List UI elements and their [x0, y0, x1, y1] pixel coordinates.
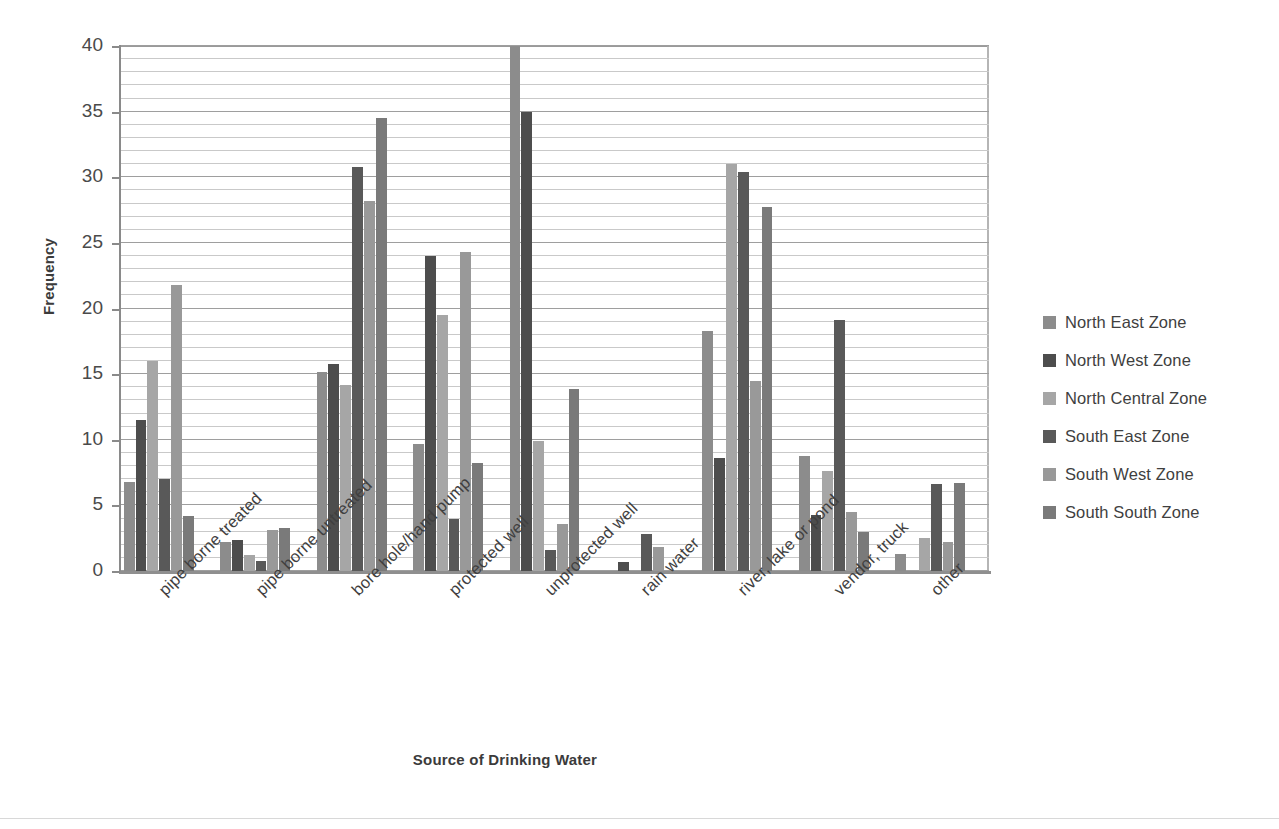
bar [449, 519, 460, 572]
legend-swatch-icon [1043, 430, 1056, 443]
y-tick-label: 40 [57, 35, 103, 54]
bar [726, 164, 737, 571]
bar [220, 542, 231, 571]
y-axis-title: Frequency [40, 217, 57, 337]
y-tick-mark [112, 374, 120, 376]
bar [954, 483, 965, 571]
y-tick-label: 10 [57, 429, 103, 448]
bar [738, 172, 749, 571]
y-tick-mark [112, 505, 120, 507]
y-tick-mark [112, 440, 120, 442]
bar [618, 562, 629, 571]
y-tick-label: 20 [57, 298, 103, 317]
bar-group [510, 46, 581, 571]
legend-item[interactable]: North West Zone [1043, 341, 1268, 379]
bar-group [124, 46, 195, 571]
bar [460, 252, 471, 571]
bar [750, 381, 761, 571]
bar [364, 201, 375, 571]
bar [641, 534, 652, 571]
legend-swatch-icon [1043, 316, 1056, 329]
y-tick-label: 5 [57, 494, 103, 513]
y-tick-mark [112, 112, 120, 114]
bar [136, 420, 147, 571]
y-tick-mark [112, 46, 120, 48]
y-tick-label: 35 [57, 101, 103, 120]
legend-label: North West Zone [1065, 351, 1191, 370]
bar [702, 331, 713, 571]
bar [244, 555, 255, 571]
legend-label: North East Zone [1065, 313, 1187, 332]
bar [376, 118, 387, 571]
y-tick-label: 30 [57, 166, 103, 185]
bar [510, 46, 521, 571]
bar-group [702, 46, 773, 571]
legend-swatch-icon [1043, 354, 1056, 367]
legend-item[interactable]: South South Zone [1043, 493, 1268, 531]
legend-item[interactable]: South West Zone [1043, 455, 1268, 493]
bar [124, 482, 135, 571]
legend-item[interactable]: North Central Zone [1043, 379, 1268, 417]
bottom-divider [0, 818, 1279, 819]
y-tick-label: 25 [57, 232, 103, 251]
bar [328, 364, 339, 571]
bar [256, 561, 267, 572]
bar-chart: Frequency 0510152025303540 pipe borne tr… [0, 0, 1279, 829]
y-tick-mark [112, 309, 120, 311]
bar [159, 479, 170, 571]
legend-label: South East Zone [1065, 427, 1189, 446]
y-tick-mark [112, 177, 120, 179]
legend-swatch-icon [1043, 468, 1056, 481]
bar [569, 389, 580, 571]
bar [931, 484, 942, 571]
bar [545, 550, 556, 571]
bar [895, 554, 906, 571]
legend-label: South South Zone [1065, 503, 1200, 522]
legend-swatch-icon [1043, 506, 1056, 519]
y-tick-mark [112, 243, 120, 245]
y-tick-mark [112, 571, 120, 573]
y-tick-label: 15 [57, 363, 103, 382]
bar [437, 315, 448, 571]
bar-group [895, 46, 966, 571]
legend-label: North Central Zone [1065, 389, 1207, 408]
legend-item[interactable]: North East Zone [1043, 303, 1268, 341]
bar [521, 112, 532, 571]
legend-label: South West Zone [1065, 465, 1194, 484]
bar [171, 285, 182, 571]
bar [919, 538, 930, 571]
bar [714, 458, 725, 571]
bar [533, 441, 544, 571]
bar [232, 540, 243, 572]
bar [340, 385, 351, 571]
bar-group [799, 46, 870, 571]
bar [762, 207, 773, 571]
bar [413, 444, 424, 571]
bar [147, 361, 158, 571]
y-tick-label: 0 [57, 560, 103, 579]
bar [834, 320, 845, 571]
chart-legend: North East ZoneNorth West ZoneNorth Cent… [1043, 303, 1268, 531]
legend-item[interactable]: South East Zone [1043, 417, 1268, 455]
x-axis-title: Source of Drinking Water [0, 751, 1010, 768]
bar-group [606, 46, 677, 571]
legend-swatch-icon [1043, 392, 1056, 405]
